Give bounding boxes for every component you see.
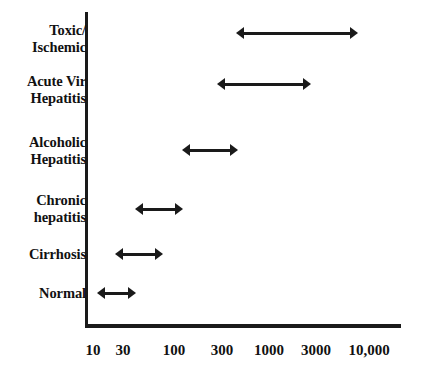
category-label-line: Normal xyxy=(0,285,86,302)
y-axis-line xyxy=(85,12,88,327)
category-label-line: Cirrhosis xyxy=(0,246,86,263)
category-label-cirrhosis: Cirrhosis xyxy=(0,246,86,263)
range-arrow-alcoholic-hepatitis xyxy=(182,144,238,157)
range-arrow-chronic-hepatitis xyxy=(135,203,183,216)
category-label-line: Hepatitis xyxy=(0,151,86,168)
x-tick-label-300: 300 xyxy=(211,342,234,359)
x-tick-label-3000: 3000 xyxy=(301,342,331,359)
x-tick-label-30: 30 xyxy=(116,342,131,359)
arrow-shaft xyxy=(120,253,158,256)
chart-container: Toxic/ Ischemic Acute Vir Hepatitis Alco… xyxy=(0,0,422,374)
arrow-head-right-icon xyxy=(350,27,358,39)
category-label-line: Alcoholic xyxy=(0,134,86,151)
category-label-toxic-ischemic: Toxic/ Ischemic xyxy=(0,22,86,56)
category-label-normal: Normal xyxy=(0,285,86,302)
arrow-shaft xyxy=(222,83,306,86)
range-arrow-normal xyxy=(97,287,136,300)
arrow-head-right-icon xyxy=(230,144,238,156)
arrow-head-right-icon xyxy=(303,78,311,90)
x-tick-label-1000: 1000 xyxy=(254,342,284,359)
x-tick-label-10: 10 xyxy=(86,342,101,359)
category-label-chronic-hepatitis: Chronic hepatitis xyxy=(0,192,86,226)
range-arrow-cirrhosis xyxy=(115,248,163,261)
category-label-alcoholic-hepatitis: Alcoholic Hepatitis xyxy=(0,134,86,168)
category-label-line: hepatitis xyxy=(0,209,86,226)
arrow-head-right-icon xyxy=(128,287,136,299)
arrow-shaft xyxy=(140,208,178,211)
category-label-acute-viral-hepatitis: Acute Vir Hepatitis xyxy=(0,73,86,107)
arrow-shaft xyxy=(241,32,353,35)
range-arrow-toxic-ischemic xyxy=(236,27,358,40)
category-label-line: Toxic/ xyxy=(0,22,86,39)
x-tick-label-100: 100 xyxy=(163,342,186,359)
category-label-line: Acute Vir xyxy=(0,73,86,90)
x-tick-label-10000: 10,000 xyxy=(348,342,389,359)
arrow-head-right-icon xyxy=(155,248,163,260)
x-axis-line xyxy=(85,324,401,328)
range-arrow-acute-viral-hepatitis xyxy=(217,78,311,91)
category-label-line: Chronic xyxy=(0,192,86,209)
category-label-line: Hepatitis xyxy=(0,90,86,107)
arrow-shaft xyxy=(187,149,233,152)
arrow-shaft xyxy=(102,292,131,295)
category-label-line: Ischemic xyxy=(0,39,86,56)
arrow-head-right-icon xyxy=(175,203,183,215)
